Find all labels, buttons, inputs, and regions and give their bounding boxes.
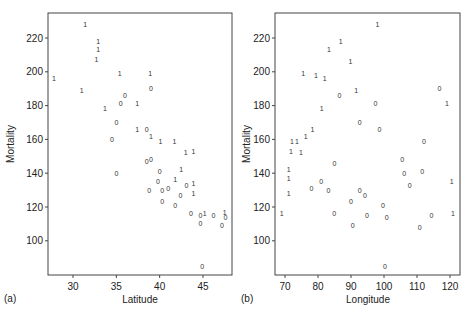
y-tick-label: 140 (253, 168, 270, 179)
data-point: 0 (114, 170, 118, 177)
y-tick-label: 100 (26, 235, 43, 246)
data-point: 1 (203, 210, 207, 217)
x-tick-label: 40 (154, 281, 166, 292)
data-point: 1 (375, 21, 379, 28)
data-point: 1 (135, 100, 139, 107)
x-tick-label: 45 (197, 281, 209, 292)
data-point: 1 (280, 210, 284, 217)
data-point: 0 (149, 85, 153, 92)
data-point: 0 (147, 187, 151, 194)
data-point: 0 (400, 156, 404, 163)
y-tick-label: 200 (253, 66, 270, 77)
data-point: 1 (287, 166, 291, 173)
data-point: 1 (348, 58, 352, 65)
data-point: 0 (365, 212, 369, 219)
data-point: 1 (301, 70, 305, 77)
data-point: 0 (156, 178, 160, 185)
data-point: 0 (319, 178, 323, 185)
y-tick-label: 120 (26, 202, 43, 213)
panel-label: (b) (241, 293, 253, 304)
data-point: 0 (166, 185, 170, 192)
x-axis: 30354045 (67, 275, 209, 292)
data-point: 0 (179, 192, 183, 199)
x-axis: 708090100110120 (279, 275, 458, 292)
data-point: 1 (299, 149, 303, 156)
data-point: 0 (158, 168, 162, 175)
data-point: 0 (383, 263, 387, 270)
y-axis: 100120140160180200220 (26, 33, 48, 247)
data-point: 1 (94, 56, 98, 63)
data-point: 0 (119, 100, 123, 107)
y-tick-label: 180 (26, 100, 43, 111)
data-point: 1 (295, 138, 299, 145)
data-point: 0 (198, 220, 202, 227)
data-point: 1 (192, 190, 196, 197)
data-point: 1 (339, 38, 343, 45)
data-point: 1 (450, 178, 454, 185)
data-point: 0 (211, 212, 215, 219)
data-points: 1111111010011010111011001001010000100010… (280, 21, 455, 270)
data-point: 1 (290, 138, 294, 145)
data-point: 0 (430, 212, 434, 219)
data-points: 1111111010011010101111000010101000010000… (52, 21, 228, 270)
data-point: 0 (408, 182, 412, 189)
plot-frame (48, 13, 232, 275)
x-axis-label: Latitude (122, 294, 158, 305)
y-tick-label: 220 (26, 33, 43, 44)
y-axis: 100120140160180200220 (253, 33, 275, 247)
x-tick-label: 70 (279, 281, 291, 292)
data-point: 1 (314, 72, 318, 79)
data-point: 1 (445, 100, 449, 107)
data-point: 1 (80, 87, 84, 94)
x-tick-label: 80 (312, 281, 324, 292)
data-point: 0 (110, 136, 114, 143)
data-point: 0 (160, 198, 164, 205)
data-point: 0 (309, 185, 313, 192)
data-point: 1 (320, 105, 324, 112)
data-point: 1 (149, 133, 153, 140)
data-point: 0 (358, 119, 362, 126)
data-point: 1 (52, 75, 56, 82)
x-tick-label: 35 (111, 281, 123, 292)
data-point: 1 (354, 87, 358, 94)
x-tick-label: 100 (376, 281, 393, 292)
data-point: 0 (189, 210, 193, 217)
data-point: 0 (173, 202, 177, 209)
y-axis-label: Mortality (241, 125, 252, 163)
data-point: 0 (200, 263, 204, 270)
data-point: 0 (333, 160, 337, 167)
x-tick-label: 120 (442, 281, 459, 292)
x-axis-label: Longitude (346, 294, 390, 305)
data-point: 1 (159, 138, 163, 145)
data-point: 0 (402, 170, 406, 177)
x-tick-label: 90 (345, 281, 357, 292)
data-point: 0 (377, 126, 381, 133)
data-point: 1 (304, 133, 308, 140)
data-point: 1 (184, 149, 188, 156)
data-point: 1 (179, 166, 183, 173)
data-point: 1 (96, 38, 100, 45)
data-point: 1 (287, 175, 291, 182)
data-point: 1 (96, 46, 100, 53)
data-point: 0 (351, 222, 355, 229)
y-tick-label: 200 (26, 66, 43, 77)
data-point: 0 (363, 192, 367, 199)
data-point: 1 (83, 21, 87, 28)
data-point: 0 (418, 224, 422, 231)
data-point: 1 (173, 176, 177, 183)
data-point: 1 (327, 46, 331, 53)
data-point: 0 (220, 222, 224, 229)
data-point: 0 (327, 187, 331, 194)
y-tick-label: 160 (253, 134, 270, 145)
y-tick-label: 160 (26, 134, 43, 145)
data-point: 1 (287, 190, 291, 197)
data-point: 0 (149, 156, 153, 163)
data-point: 0 (332, 210, 336, 217)
x-tick-label: 30 (67, 281, 79, 292)
data-point: 1 (148, 70, 152, 77)
data-point: 0 (349, 198, 353, 205)
data-point: 0 (373, 100, 377, 107)
data-point: 0 (358, 187, 362, 194)
data-point: 0 (381, 202, 385, 209)
data-point: 0 (420, 168, 424, 175)
